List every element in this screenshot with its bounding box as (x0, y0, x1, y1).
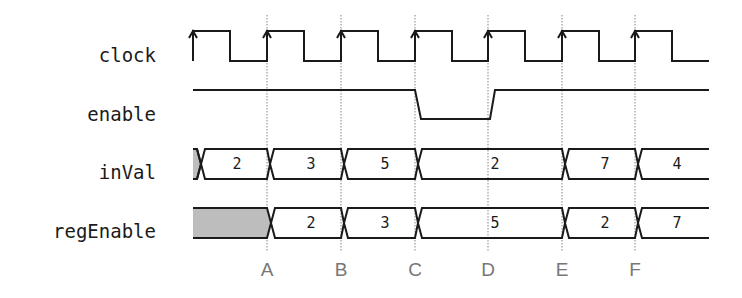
bus-value: 5 (380, 155, 389, 173)
marker-label-e: E (556, 259, 569, 280)
timing-diagram: clock enable inVal regEnable 2 3 5 2 7 4 (0, 0, 742, 298)
signal-label-clock: clock (99, 44, 157, 66)
regenable-bus: 2 3 5 2 7 (193, 208, 709, 238)
marker-label-a: A (261, 259, 274, 280)
undefined-region (193, 208, 271, 238)
marker-label-d: D (481, 259, 495, 280)
undefined-region (193, 149, 201, 179)
bus-value: 7 (600, 155, 609, 173)
signal-label-inval: inVal (99, 161, 156, 183)
bus-value: 2 (490, 155, 499, 173)
marker-label-f: F (629, 259, 641, 280)
clock-waveform (189, 31, 709, 61)
bus-value: 4 (672, 155, 681, 173)
bus-value: 3 (380, 214, 389, 232)
enable-waveform (193, 90, 709, 119)
inval-bus: 2 3 5 2 7 4 (193, 149, 709, 179)
signal-label-enable: enable (87, 103, 156, 125)
bus-value: 7 (672, 214, 681, 232)
bus-value: 2 (600, 214, 609, 232)
bus-value: 2 (232, 155, 241, 173)
marker-labels: A B C D E F (261, 259, 641, 280)
bus-value: 3 (306, 155, 315, 173)
marker-label-c: C (408, 259, 422, 280)
bus-value: 2 (306, 214, 315, 232)
marker-label-b: B (335, 259, 348, 280)
signal-label-regenable: regEnable (53, 220, 156, 242)
bus-value: 5 (490, 214, 499, 232)
